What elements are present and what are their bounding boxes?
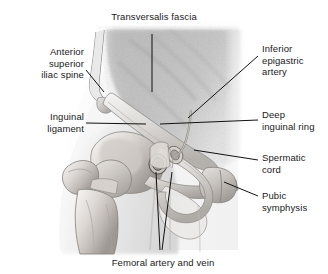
label-deep-inguinal-ring: Deep inguinal ring: [262, 109, 328, 132]
label-anterior-superior-iliac-spine: Anterior superior iliac spine: [8, 46, 84, 81]
anatomical-illustration: [0, 0, 328, 274]
label-spermatic-cord: Spermatic cord: [262, 152, 326, 175]
label-femoral-artery-and-vein: Femoral artery and vein: [78, 257, 248, 269]
figure-container: Transversalis fascia Anterior superior i…: [0, 0, 328, 274]
label-inferior-epigastric-artery: Inferior epigastric artery: [262, 43, 326, 78]
label-transversalis-fascia: Transversalis fascia: [94, 11, 214, 23]
label-pubic-symphysis: Pubic symphysis: [262, 190, 326, 213]
label-inguinal-ligament: Inguinal ligament: [10, 111, 84, 134]
